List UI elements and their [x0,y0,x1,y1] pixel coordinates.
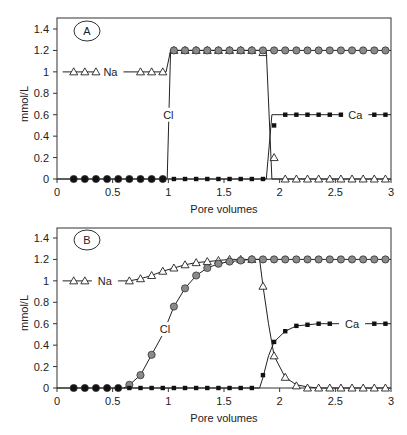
x-tick-label: 0.5 [105,186,120,198]
square-marker [316,113,320,117]
circle-marker [371,47,378,54]
square-marker [305,113,309,117]
triangle-marker [148,68,156,75]
chart-panel-a: 00.20.40.60.811.21.400.511.522.53Pore vo… [18,18,394,215]
square-marker [294,113,298,117]
square-marker [294,324,298,328]
x-tick-label: 2.5 [328,186,343,198]
circle-marker [382,256,389,263]
circle-marker [326,256,333,263]
circle-marker [215,47,222,54]
square-marker [283,329,287,333]
x-axis-label: Pore volumes [190,203,258,215]
square-marker [239,177,243,181]
square-marker [272,123,276,127]
triangle-marker [70,68,78,75]
circle-marker [271,47,278,54]
circle-marker [282,47,289,54]
y-tick-label: 0.6 [34,318,49,330]
square-marker [227,177,231,181]
square-marker [283,113,287,117]
y-tick-label: 0.8 [34,296,49,308]
circle-marker [148,175,155,182]
circle-marker [92,175,99,182]
series-label: Ca [345,318,360,330]
circle-marker [92,384,99,391]
circle-marker [293,47,300,54]
circle-marker [348,47,355,54]
square-marker [383,113,387,117]
circle-marker [304,256,311,263]
circle-marker [159,175,166,182]
square-marker [250,386,254,390]
y-tick-label: 1.4 [34,232,49,244]
circle-marker [237,257,244,264]
x-tick-label: 1 [165,395,171,407]
circle-marker [115,384,122,391]
circle-marker [193,47,200,54]
y-axis-label: mmol/L [18,295,30,331]
square-marker [205,386,209,390]
circle-marker [304,47,311,54]
circle-marker [360,256,367,263]
circle-marker [248,47,255,54]
square-marker [205,177,209,181]
circle-marker [115,175,122,182]
square-marker [172,386,176,390]
square-marker [316,322,320,326]
circle-marker [170,47,177,54]
circle-marker [181,47,188,54]
square-marker [383,322,387,326]
x-tick-label: 2.5 [328,395,343,407]
y-tick-label: 0 [43,382,49,394]
series-label: Cl [160,323,170,335]
circle-marker [259,47,266,54]
square-marker [216,177,220,181]
circle-marker [382,47,389,54]
square-marker [183,177,187,181]
circle-marker [248,256,255,263]
plot-frame [57,228,391,388]
x-axis-label: Pore volumes [190,412,258,424]
x-tick-label: 1.5 [216,186,231,198]
circle-marker [170,303,177,310]
circle-marker [81,175,88,182]
circle-marker [126,175,133,182]
circle-marker [70,175,77,182]
panel-label: B [83,234,90,246]
circle-marker [271,256,278,263]
square-marker [183,386,187,390]
circle-marker [148,351,155,358]
square-marker [149,386,153,390]
x-tick-label: 0.5 [105,395,120,407]
x-tick-label: 3 [388,186,394,198]
circle-marker [181,285,188,292]
square-marker [328,113,332,117]
circle-marker [360,47,367,54]
chart-panel-b: 00.20.40.60.811.21.400.511.522.53Pore vo… [18,228,394,424]
square-marker [161,386,165,390]
triangle-marker [259,282,267,289]
x-tick-label: 3 [388,395,394,407]
triangle-marker [159,68,167,75]
y-tick-label: 0.4 [34,130,49,142]
triangle-marker [270,352,278,359]
y-tick-label: 0.4 [34,339,49,351]
x-tick-label: 2 [277,186,283,198]
circle-marker [326,47,333,54]
square-marker [328,322,332,326]
circle-marker [215,260,222,267]
circle-marker [70,384,77,391]
y-tick-label: 1 [43,66,49,78]
square-marker [127,386,131,390]
triangle-marker [81,68,89,75]
circle-marker [226,47,233,54]
y-axis-label: mmol/L [18,86,30,122]
y-tick-label: 0.6 [34,109,49,121]
circle-marker [371,256,378,263]
series-ca: Ca [168,108,391,181]
y-tick-label: 0.8 [34,87,49,99]
y-tick-label: 1.2 [34,253,49,265]
square-marker [261,373,265,377]
circle-marker [293,256,300,263]
